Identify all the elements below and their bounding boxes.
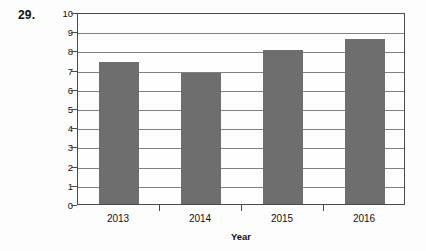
x-axis-tick-label: 2014 [170, 213, 230, 224]
chart-page: 29. Sales in millions of dollars 0123456… [0, 0, 426, 251]
y-axis-tick-label: 6 [51, 84, 73, 95]
x-axis-title: Year [77, 231, 405, 242]
problem-number: 29. [18, 8, 35, 22]
y-axis-tick-label: 0 [51, 200, 73, 211]
y-axis-tick-label: 9 [51, 27, 73, 38]
x-axis-tick-label: 2016 [334, 213, 394, 224]
y-axis-tick-label: 5 [51, 104, 73, 115]
x-axis-tick-mark [323, 205, 324, 211]
gridline [78, 33, 404, 34]
y-axis-tick-label: 4 [51, 123, 73, 134]
y-axis-tick-label: 3 [51, 142, 73, 153]
x-axis-tick-label: 2015 [252, 213, 312, 224]
x-axis-tick-mark [159, 205, 160, 211]
bar [99, 62, 139, 204]
y-axis-tick-label: 8 [51, 46, 73, 57]
y-axis-tick-label: 1 [51, 180, 73, 191]
bar [181, 73, 221, 204]
y-axis-tick-label: 2 [51, 161, 73, 172]
y-axis-tick-label: 10 [51, 8, 73, 19]
x-axis-tick-label: 2013 [88, 213, 148, 224]
bar [345, 39, 385, 204]
y-axis-tick-mark [71, 205, 77, 206]
bar [263, 50, 303, 204]
y-axis-tick-label: 7 [51, 65, 73, 76]
plot-area [77, 13, 405, 205]
x-axis-tick-mark [241, 205, 242, 211]
